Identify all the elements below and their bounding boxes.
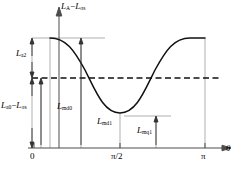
guide-lines (32, 38, 205, 148)
arrow-la2-up-head (30, 38, 34, 44)
annotation-label-la0: La0−Lσs (1, 101, 27, 111)
annotation-label-mq1: Lmq1 (137, 126, 152, 136)
x-tick-label-0: 0 (30, 152, 35, 161)
inductance-vs-rotor-angle-chart: LA−Lσs La2 La0−Lσs Lmd0 Lmd1 Lmq1 0 π/2 … (0, 0, 241, 177)
y-axis-label: LA−Lσs (61, 2, 85, 12)
md0-sub: md0 (62, 105, 72, 111)
arrow-md1-head (79, 38, 83, 44)
y-axis-label-sub-sigma-s: σs (80, 5, 85, 11)
annotation-label-la2: La2 (16, 49, 26, 59)
arrow-md0-head (39, 78, 43, 84)
la0-sub2: σs (21, 104, 26, 110)
arrow-la0-down-head (30, 142, 34, 148)
mq1-sub: mq1 (142, 129, 152, 135)
x-axis-label: θ (226, 144, 230, 153)
md1-sub: md1 (102, 120, 112, 126)
annotation-label-md1: Lmd1 (97, 117, 112, 127)
annotation-label-md0: Lmd0 (57, 102, 72, 112)
la2-sub: a2 (21, 52, 26, 58)
arrow-la0-up-head (30, 78, 34, 84)
arrow-mq1-head (154, 116, 158, 122)
x-tick-label-pi: π (201, 152, 206, 161)
inductance-curve (50, 38, 205, 113)
axis-group (28, 7, 231, 151)
x-tick-label-half-pi: π/2 (111, 152, 123, 161)
